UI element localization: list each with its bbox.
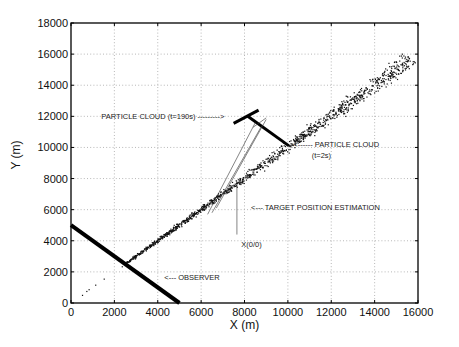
y-tick-label: 12000: [37, 110, 68, 122]
y-tick-label: 2000: [44, 266, 68, 278]
annotation-particle-cloud-2s: <------ PARTICLE CLOUD: [293, 140, 379, 149]
y-tick-label: 14000: [37, 79, 68, 91]
annotation-particle-cloud-190s: PARTICLE CLOUD (t=190s) --------->: [101, 112, 225, 121]
y-tick-label: 6000: [44, 204, 68, 216]
target-estimation-line: [216, 119, 266, 208]
x-tick-label: 16000: [403, 306, 434, 318]
x-axis-label: X (m): [230, 318, 259, 332]
y-tick-label: 0: [62, 297, 68, 309]
y-tick-label: 8000: [44, 173, 68, 185]
annotation-observer: <--- OBSERVER: [164, 273, 220, 282]
annotation-particle-cloud-2s-time: (t=2s): [312, 151, 332, 160]
annotation-origin: X(0/0): [241, 240, 262, 249]
x-tick-label: 8000: [232, 306, 256, 318]
x-tick-label: 0: [68, 306, 74, 318]
x-tick-label: 12000: [316, 306, 347, 318]
y-tick-label: 4000: [44, 235, 68, 247]
target-estimation-line: [208, 123, 256, 215]
y-axis-label: Y (m): [9, 140, 23, 169]
chart: 0200040006000800010000120001400016000020…: [0, 0, 459, 347]
annotation-target-position-estimation: <--- TARGET POSITION ESTIMATION: [251, 203, 380, 212]
x-tick-label: 14000: [359, 306, 390, 318]
x-tick-label: 4000: [146, 306, 170, 318]
y-tick-label: 10000: [37, 141, 68, 153]
y-tick-label: 18000: [37, 17, 68, 29]
x-tick-label: 6000: [189, 306, 213, 318]
x-tick-label: 10000: [273, 306, 304, 318]
axis-ticks: 0200040006000800010000120001400016000020…: [37, 17, 433, 318]
x-tick-label: 2000: [102, 306, 126, 318]
y-tick-label: 16000: [37, 48, 68, 60]
particle-cloud-2s: [82, 54, 416, 296]
